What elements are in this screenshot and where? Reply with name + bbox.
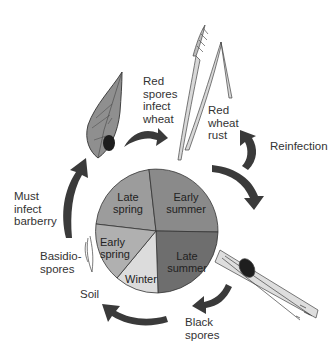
label-reinfection: Reinfection — [270, 140, 328, 153]
basidiospores-icon — [85, 236, 93, 272]
label-red-spores: Red spores infect wheat — [143, 75, 178, 125]
life-cycle-diagram — [0, 0, 335, 345]
arrow-to-barberry — [63, 158, 88, 238]
arrow-reinfection-up — [240, 130, 256, 170]
label-soil: Soil — [80, 288, 99, 301]
pie-label-early-spring: Early spring — [100, 236, 140, 260]
arrow-reinfection — [212, 165, 264, 210]
pie-label-late-summer: Late summer — [164, 250, 210, 274]
arrow-to-wheat — [124, 128, 168, 147]
wheat-stem-icon — [215, 250, 318, 320]
barberry-leaf-icon — [87, 72, 122, 158]
pie-label-early-summer: Early summer — [163, 191, 209, 215]
arrow-black-spores — [192, 284, 232, 314]
label-red-wheat-rust: Red wheat rust — [208, 104, 239, 142]
label-basidiospores: Basidio- spores — [40, 250, 82, 275]
label-black-spores: Black spores — [185, 316, 220, 341]
pie-label-late-spring: Late spring — [108, 191, 148, 215]
arrow-to-soil — [102, 304, 168, 325]
label-must-infect: Must infect barberry — [14, 190, 57, 228]
pie-label-winter: Winter — [121, 273, 161, 285]
